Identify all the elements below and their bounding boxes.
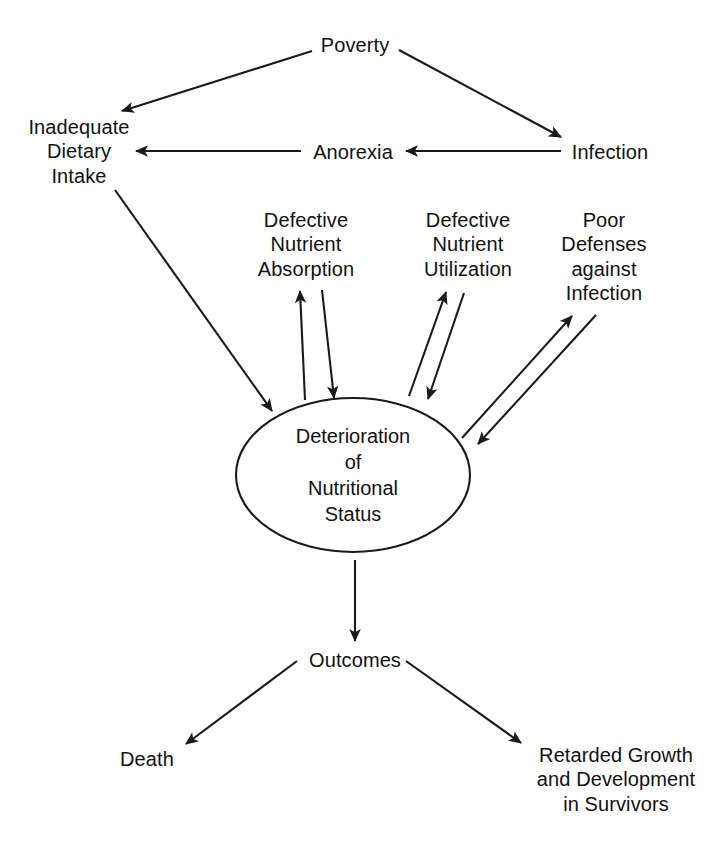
node-defective-nutrient-utilization: Defective Nutrient Utilization xyxy=(424,208,512,281)
diagram-canvas: Poverty Inadequate Dietary Intake Anorex… xyxy=(0,0,727,844)
node-deterioration-of-nutritional-status: Deterioration of Nutritional Status xyxy=(296,423,411,527)
node-retarded-growth: Retarded Growth and Development in Survi… xyxy=(537,743,695,816)
edge-inadequate-dietary-intake-to-deterioration xyxy=(115,190,272,411)
edge-deterioration-to-poor-defenses-up xyxy=(462,316,572,438)
node-anorexia: Anorexia xyxy=(313,140,393,164)
edge-poor-defenses-to-deterioration-down xyxy=(478,315,596,444)
edge-deterioration-to-absorption-up xyxy=(300,291,305,400)
node-infection: Infection xyxy=(572,140,649,164)
edge-absorption-to-deterioration-down xyxy=(322,290,334,398)
edge-outcomes-to-retarded-growth xyxy=(406,661,521,743)
node-poverty: Poverty xyxy=(321,33,390,57)
edge-poverty-to-inadequate-dietary-intake xyxy=(122,51,312,111)
node-defective-nutrient-absorption: Defective Nutrient Absorption xyxy=(258,208,355,281)
edge-utilization-to-deterioration-down xyxy=(428,293,464,399)
edge-outcomes-to-death xyxy=(186,661,297,744)
node-poor-defenses-against-infection: Poor Defenses against Infection xyxy=(561,208,646,306)
node-inadequate-dietary-intake: Inadequate Dietary Intake xyxy=(28,115,129,188)
edge-poverty-to-infection xyxy=(399,50,561,137)
node-death: Death xyxy=(120,747,174,771)
edge-deterioration-to-utilization-up xyxy=(409,292,446,396)
node-outcomes: Outcomes xyxy=(309,648,401,672)
